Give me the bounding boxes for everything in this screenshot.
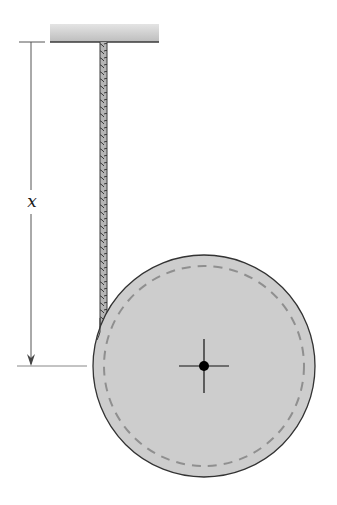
center-dot <box>199 361 209 371</box>
dimension-label-x: x <box>22 190 42 212</box>
diagram-canvas <box>0 0 337 505</box>
rope <box>100 42 107 332</box>
ceiling-support <box>50 24 159 42</box>
